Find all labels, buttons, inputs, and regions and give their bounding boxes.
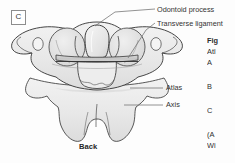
left-transverse-foramen <box>33 38 43 51</box>
odontoid-process-dens <box>85 25 109 58</box>
orientation-label-back: Back <box>79 142 97 151</box>
caption-source-line-1: (A <box>207 130 214 139</box>
callout-label-transverse-ligament: Transverse ligament <box>157 20 223 28</box>
caption-figure-number: Fig <box>207 36 218 45</box>
figure-panel: C <box>0 0 235 163</box>
caption-source-line-2: Wi <box>207 141 216 150</box>
caption-title: Atl <box>207 47 216 56</box>
callout-label-atlas: Atlas <box>166 84 182 92</box>
right-transverse-foramen <box>151 38 161 51</box>
caption-item-a: A <box>207 58 212 67</box>
caption-item-b: B <box>207 82 212 91</box>
figure-caption-clipped: Fig Atl A B C (A Wi <box>207 36 235 163</box>
callout-label-axis: Axis <box>166 101 180 109</box>
callout-label-odontoid-process: Odontoid process <box>157 6 214 14</box>
caption-item-c: C <box>207 106 212 115</box>
